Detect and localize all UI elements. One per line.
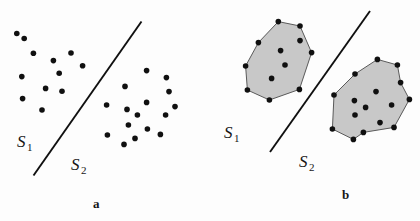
set-label-subscript: 1 — [27, 141, 33, 153]
data-point — [104, 102, 110, 108]
data-point — [158, 132, 164, 138]
data-point — [166, 89, 172, 95]
interior-point — [377, 120, 383, 126]
hull-vertex-point — [276, 19, 282, 25]
panel-b-hull-s1 — [243, 19, 315, 103]
set-label-subscript: 2 — [81, 164, 87, 176]
hull-vertex-point — [256, 40, 262, 46]
set-label-base: S — [299, 152, 308, 171]
hull-vertex-point — [297, 87, 303, 93]
data-point — [21, 36, 27, 42]
data-point — [105, 132, 111, 138]
panel-a-cluster-s1 — [14, 31, 85, 113]
data-point — [126, 122, 132, 128]
hull-vertex-point — [398, 80, 404, 86]
data-point — [122, 84, 128, 90]
data-point — [121, 142, 127, 148]
data-point — [144, 100, 150, 106]
hull-vertex-point — [352, 71, 358, 77]
set-label-base: S — [17, 132, 26, 151]
figure-canvas: S1 S2 S1 S2 — [0, 0, 420, 221]
panel-b-label-s2: S2 — [299, 152, 315, 173]
interior-point — [352, 98, 358, 104]
interior-point — [389, 102, 395, 108]
panel-a-label-s2: S2 — [71, 155, 87, 176]
interior-point — [352, 112, 358, 118]
data-point — [20, 96, 26, 102]
panel-a: S1 S2 — [14, 22, 178, 177]
hull-vertex-point — [375, 57, 381, 63]
interior-point — [297, 38, 303, 44]
hull-vertex-point — [395, 62, 401, 68]
hull-vertex-point — [243, 63, 249, 69]
hull-vertex-point — [391, 125, 397, 131]
interior-point — [363, 105, 369, 111]
panel-b-hull-s2 — [330, 57, 413, 143]
data-point — [172, 104, 178, 110]
hull-vertex-point — [361, 130, 367, 136]
set-label-base: S — [224, 123, 233, 142]
data-point — [51, 58, 57, 64]
set-label-text: S1 — [17, 132, 33, 153]
data-point — [43, 86, 49, 92]
data-point — [31, 50, 37, 56]
convex-hull-polygon — [332, 59, 409, 139]
interior-point — [373, 89, 379, 95]
set-label-subscript: 2 — [309, 161, 315, 173]
data-point — [59, 88, 65, 94]
panel-b: S1 S2 — [224, 11, 412, 173]
set-label-base: S — [71, 155, 80, 174]
hull-vertex-point — [331, 92, 337, 98]
interior-point — [269, 76, 275, 82]
data-point — [163, 112, 169, 118]
panel-a-caption: a — [93, 197, 100, 210]
data-point — [39, 107, 45, 113]
data-point — [19, 74, 25, 80]
panel-a-separating-line — [34, 22, 142, 176]
hull-vertex-point — [407, 97, 413, 103]
data-point — [124, 107, 130, 113]
hull-vertex-point — [267, 97, 273, 103]
hull-vertex-point — [245, 87, 251, 93]
panel-b-label-s1: S1 — [224, 123, 240, 144]
set-label-subscript: 1 — [234, 132, 240, 144]
set-label-text: S1 — [224, 123, 240, 144]
panel-a-label-s1: S1 — [17, 132, 33, 153]
data-point — [56, 70, 62, 76]
data-point — [132, 136, 138, 142]
set-label-text: S2 — [299, 152, 315, 173]
data-point — [80, 63, 86, 69]
hull-vertex-point — [330, 126, 336, 132]
data-point — [68, 50, 74, 56]
hull-vertex-point — [297, 23, 303, 29]
panel-b-caption: b — [342, 188, 349, 201]
interior-point — [282, 62, 288, 68]
set-label-text: S2 — [71, 155, 87, 176]
interior-point — [278, 48, 284, 54]
panel-a-cluster-s2 — [104, 68, 178, 147]
hull-vertex-point — [309, 50, 315, 56]
figure-root: S1 S2 S1 S2 a b — [0, 0, 420, 221]
data-point — [135, 112, 141, 118]
hull-vertex-point — [351, 137, 357, 143]
data-point — [144, 68, 150, 74]
data-point — [164, 75, 170, 81]
data-point — [14, 31, 20, 37]
data-point — [145, 126, 151, 132]
